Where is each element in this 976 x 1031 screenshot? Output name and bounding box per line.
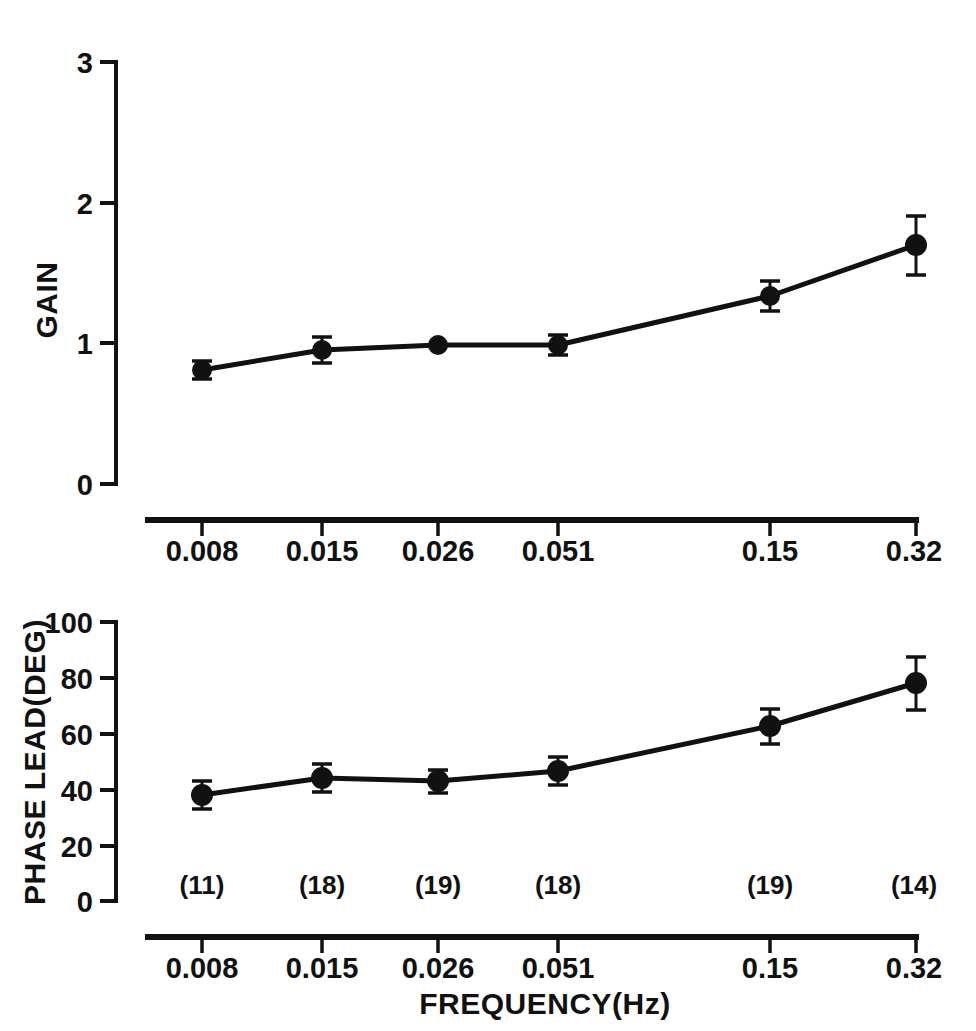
phase-ytick-label-40: 40	[61, 775, 93, 807]
phase-ytick-label-0: 0	[77, 886, 93, 918]
gain-markers	[192, 234, 927, 380]
gain-panel: 3 2 1 0 GAIN 0.008 0.015 0.026 0.051 0.1…	[30, 47, 942, 567]
gain-ytick-label-0: 0	[77, 469, 93, 501]
phase-xtick-label-0: 0.008	[166, 952, 239, 984]
sample-count-4: (19)	[747, 870, 793, 900]
sample-count-3: (18)	[535, 870, 581, 900]
phase-datapoint-1	[311, 767, 333, 789]
gain-datapoint-1	[312, 340, 332, 360]
gain-datapoint-2	[428, 335, 448, 355]
gain-datapoint-3	[548, 335, 568, 355]
figure-canvas: 3 2 1 0 GAIN 0.008 0.015 0.026 0.051 0.1…	[0, 0, 976, 1031]
phase-datapoint-3	[547, 760, 569, 782]
gain-datapoint-4	[760, 286, 780, 306]
sample-count-0: (11)	[180, 870, 225, 900]
gain-xtick-label-2: 0.026	[402, 535, 475, 567]
phase-x-axis-title: FREQUENCY(Hz)	[419, 987, 671, 1020]
gain-xtick-label-5: 0.32	[886, 535, 942, 567]
phase-datapoint-2	[427, 770, 449, 792]
phase-xtick-label-5: 0.32	[886, 952, 942, 984]
phase-datapoint-4	[759, 715, 781, 737]
phase-ytick-label-60: 60	[61, 719, 93, 751]
phase-xtick-label-3: 0.051	[522, 952, 595, 984]
phase-xtick-label-2: 0.026	[402, 952, 475, 984]
phase-datapoint-0	[191, 784, 213, 806]
sample-counts: (11) (18) (19) (18) (19) (14)	[180, 870, 938, 900]
gain-xtick-label-4: 0.15	[742, 535, 798, 567]
gain-datapoint-5	[905, 234, 927, 256]
gain-y-axis-title: GAIN	[30, 262, 63, 339]
gain-xtick-label-0: 0.008	[166, 535, 239, 567]
sample-count-5: (14)	[891, 870, 937, 900]
gain-datapoint-0	[192, 360, 212, 380]
gain-ytick-label-3: 3	[77, 47, 93, 79]
phase-ytick-label-100: 100	[45, 607, 93, 639]
sample-count-1: (18)	[299, 870, 345, 900]
phase-panel: 100 80 60 40 20 0 PHASE LEAD(DEG) (11) (…	[18, 607, 942, 1020]
gain-ytick-label-1: 1	[77, 328, 93, 360]
phase-xtick-label-1: 0.015	[286, 952, 359, 984]
phase-ytick-label-20: 20	[61, 831, 93, 863]
gain-xtick-label-3: 0.051	[522, 535, 595, 567]
phase-y-axis-title: PHASE LEAD(DEG)	[18, 619, 51, 905]
gain-ytick-label-2: 2	[77, 188, 93, 220]
phase-xtick-label-4: 0.15	[742, 952, 798, 984]
gain-xtick-label-1: 0.015	[286, 535, 359, 567]
figure-root: 3 2 1 0 GAIN 0.008 0.015 0.026 0.051 0.1…	[0, 0, 976, 1031]
phase-ytick-label-80: 80	[61, 663, 93, 695]
phase-errorbars	[192, 657, 926, 809]
phase-datapoint-5	[905, 672, 927, 694]
sample-count-2: (19)	[415, 870, 461, 900]
